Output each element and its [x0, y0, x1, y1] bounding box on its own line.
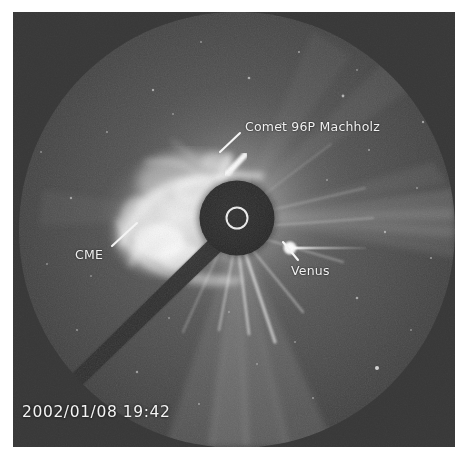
outer-grain — [13, 12, 455, 447]
coronagraph-image: Comet 96P Machholz CME Venus 2002/01/08 … — [13, 12, 455, 447]
annotation-label-cme: CME — [75, 247, 103, 262]
screenshot-root: Comet 96P Machholz CME Venus 2002/01/08 … — [0, 0, 472, 457]
coronagraph-canvas — [13, 12, 455, 447]
timestamp-overlay: 2002/01/08 19:42 — [22, 403, 171, 421]
annotation-label-venus: Venus — [291, 263, 330, 278]
annotation-label-comet: Comet 96P Machholz — [245, 119, 380, 134]
